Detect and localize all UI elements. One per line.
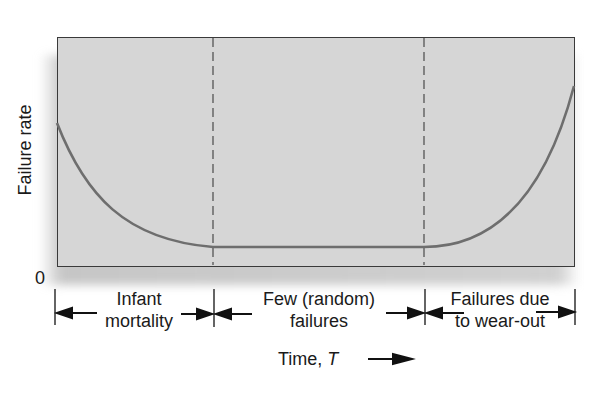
- region-wear-out: Failures due to wear-out: [436, 288, 564, 332]
- x-axis-variable: T: [327, 349, 338, 369]
- region-random-failures: Few (random) failures: [242, 288, 396, 332]
- time-arrow-icon: [368, 354, 412, 364]
- x-axis-label: Time, T: [278, 349, 338, 370]
- region-label-line2: mortality: [97, 310, 181, 332]
- failure-rate-curve: [57, 86, 574, 247]
- y-origin-label: 0: [35, 268, 45, 289]
- chart-graphics: [0, 0, 604, 393]
- region-label-line1: Infant: [97, 288, 181, 310]
- region-label-line1: Few (random): [242, 288, 396, 310]
- x-axis-label-text: Time,: [278, 349, 327, 369]
- region-label-line2: failures: [242, 310, 396, 332]
- region-label-line1: Failures due: [436, 288, 564, 310]
- arrow-left-icon: [57, 308, 97, 318]
- region-label-line2: to wear-out: [436, 310, 564, 332]
- region-infant-mortality: Infant mortality: [97, 288, 181, 332]
- y-axis-label: Failure rate: [15, 104, 36, 195]
- arrow-right-icon: [181, 309, 212, 319]
